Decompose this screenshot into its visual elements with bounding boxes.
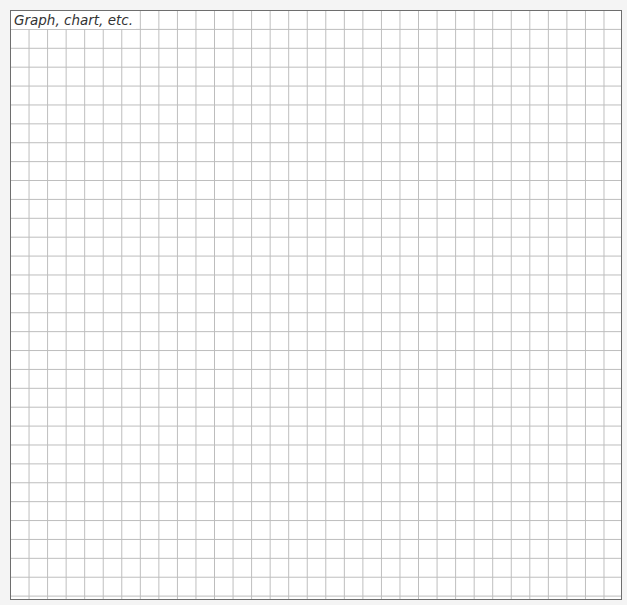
grid-label: Graph, chart, etc. <box>11 11 136 29</box>
graph-paper-grid: Graph, chart, etc. <box>10 10 622 600</box>
